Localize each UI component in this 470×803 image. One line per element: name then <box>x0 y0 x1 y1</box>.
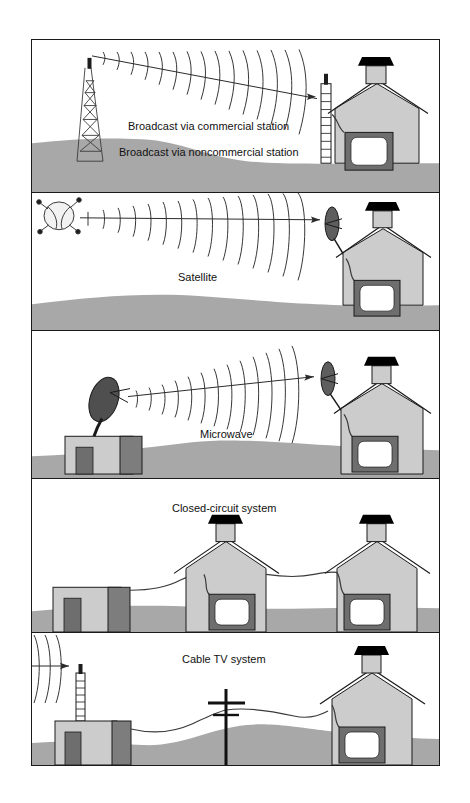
label-cable-tv: Cable TV system <box>182 653 266 665</box>
panel-satellite: Satellite <box>32 193 439 331</box>
label-satellite: Satellite <box>178 271 217 283</box>
head-end-mast-antenna <box>76 664 85 721</box>
radio-wave-arcs <box>80 193 320 280</box>
panel-closed-circuit: Closed-circuit system <box>32 479 439 633</box>
television-set-right <box>344 594 390 630</box>
panel-microwave: Microwave <box>32 331 439 479</box>
panel-broadcast: Broadcast via commercial station Broadca… <box>32 40 439 193</box>
television-set <box>352 436 398 472</box>
label-broadcast-commercial: Broadcast via commercial station <box>128 120 289 132</box>
figure-frame: Broadcast via commercial station Broadca… <box>31 39 440 766</box>
label-closed-circuit: Closed-circuit system <box>172 502 276 514</box>
panel-satellite-art: Satellite <box>32 193 439 330</box>
panel-closed-circuit-art: Closed-circuit system <box>32 479 439 632</box>
panel-cable-tv: Cable TV system <box>32 633 439 765</box>
microwave-dish-transmitter <box>84 374 130 437</box>
television-set <box>354 280 400 316</box>
television-set <box>339 727 385 763</box>
panel-broadcast-art: Broadcast via commercial station Broadca… <box>32 40 439 192</box>
satellite-dish-receiver <box>325 207 346 259</box>
panel-microwave-art: Microwave <box>32 331 439 478</box>
cable-head-end-building <box>55 721 131 765</box>
satellite-dish-receiver <box>321 362 344 415</box>
panel-cable-tv-art: Cable TV system <box>32 633 439 765</box>
rooftop-mast-antenna <box>321 74 331 163</box>
head-end-building <box>53 587 130 632</box>
satellite-icon <box>37 198 82 234</box>
television-set-left <box>209 594 255 630</box>
incoming-radio-wave-arcs <box>32 635 69 703</box>
label-microwave: Microwave <box>200 428 253 440</box>
transmitting-station-building <box>65 436 142 474</box>
television-set <box>345 132 393 170</box>
label-broadcast-noncommercial: Broadcast via noncommercial station <box>119 146 299 158</box>
